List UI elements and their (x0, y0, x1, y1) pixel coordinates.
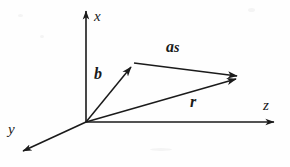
vector-as-label-sub: s (174, 40, 179, 55)
vector-diagram-figure: x y z b as r (0, 0, 290, 167)
vector-as-label: as (166, 39, 179, 55)
vector-r-line (86, 79, 236, 122)
vector-as-line (134, 63, 237, 76)
vector-b-line (86, 67, 131, 122)
vector-as-label-main: a (166, 38, 174, 55)
x-axis-label: x (94, 9, 101, 24)
vector-r-label: r (190, 94, 196, 110)
y-axis-line (23, 122, 86, 151)
diagram-canvas (0, 0, 290, 167)
z-axis-label: z (263, 98, 269, 113)
vector-b-label: b (94, 66, 102, 82)
y-axis-label: y (8, 122, 15, 137)
